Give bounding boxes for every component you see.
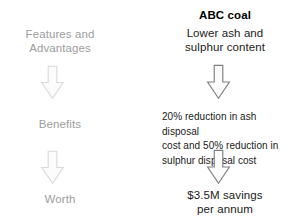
diagram-canvas: Features and Advantages Benefits Worth A…: [0, 0, 298, 219]
ladder-step-worth-label: Worth: [0, 192, 120, 206]
down-arrow-icon: [206, 149, 231, 185]
example-heading: ABC coal: [160, 8, 290, 22]
down-arrow-icon: [40, 65, 65, 100]
down-arrow-icon: [206, 64, 231, 100]
example-step-worth-label: $3.5M savings per annum: [160, 188, 290, 216]
down-arrow-icon: [40, 150, 65, 185]
ladder-step-benefits-label: Benefits: [0, 117, 120, 131]
example-step-features-label: Lower ash and sulphur content: [160, 26, 290, 54]
ladder-step-features-and-advantages-label: Features and Advantages: [0, 27, 120, 55]
